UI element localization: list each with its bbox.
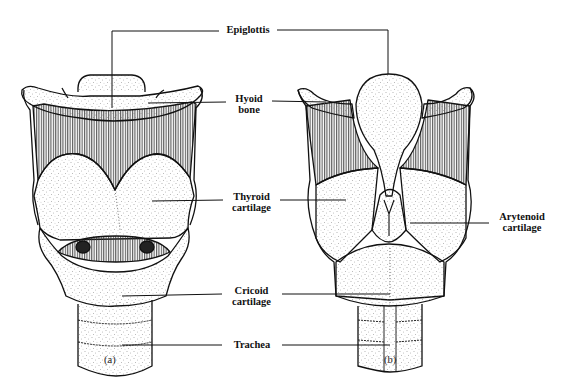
diagram-artwork [0, 0, 568, 385]
larynx-diagram: Epiglottis Hyoid bone Thyroid cartilage … [0, 0, 568, 385]
panel-b-caption: (b) [384, 354, 396, 365]
epiglottis-label-text: Epiglottis [226, 24, 269, 35]
arytenoid-label-line2: cartilage [492, 222, 552, 233]
panel-a-caption: (a) [104, 354, 116, 365]
hyoid-label-line1: Hyoid [226, 93, 272, 104]
arytenoid-label-line1: Arytenoid [492, 211, 552, 222]
hyoid-label-line2: bone [226, 104, 272, 115]
arytenoid-cartilage-label: Arytenoid cartilage [492, 211, 552, 233]
epiglottis-leader-right [277, 30, 388, 74]
hyoid-bone-label: Hyoid bone [226, 93, 272, 115]
thyroid-label-line2: cartilage [223, 202, 280, 213]
trachea-label: Trachea [224, 339, 280, 350]
cricoid-label-line2: cartilage [223, 296, 280, 307]
trachea-label-text: Trachea [234, 339, 271, 350]
cricoid-label-line1: Cricoid [223, 285, 280, 296]
thyroid-cartilage-label: Thyroid cartilage [223, 191, 280, 213]
epiglottis-label: Epiglottis [219, 24, 277, 35]
thyroid-label-line1: Thyroid [223, 191, 280, 202]
larynx-anterior-view [22, 75, 203, 376]
cricoid-cartilage-label: Cricoid cartilage [223, 285, 280, 307]
